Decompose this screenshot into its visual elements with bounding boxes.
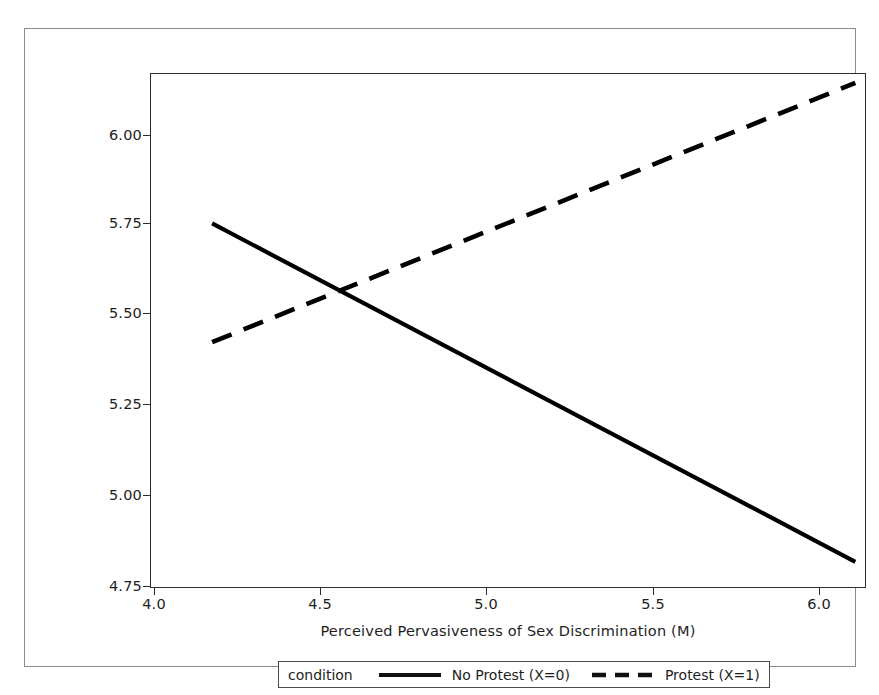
y-tick-mark-4-75 [143,586,150,587]
legend-swatch-solid-icon [379,670,441,680]
x-tick-mark-4-0 [154,588,155,595]
x-tick-label-4-5: 4.5 [308,596,332,612]
y-tick-mark-5-00 [143,495,150,496]
figure-frame: 6.00 5.75 5.50 5.25 5.00 4.75 4.0 4.5 5.… [24,28,856,667]
legend-label-protest: Protest (X=1) [665,667,760,683]
y-tick-mark-5-75 [143,223,150,224]
y-tick-mark-5-25 [143,404,150,405]
x-tick-mark-6-0 [819,588,820,595]
y-axis-title: Liking of the Attorney (Y) [55,589,77,695]
series-line-no-protest [212,223,855,561]
x-tick-label-5-5: 5.5 [641,596,665,612]
series-line-protest [212,83,855,342]
x-tick-label-4-0: 4.0 [142,596,166,612]
y-tick-label-6-00: 6.00 [109,127,142,143]
legend-swatch-dashed-icon [592,670,654,680]
x-tick-label-6-0: 6.0 [807,596,831,612]
x-tick-mark-5-5 [653,588,654,595]
y-tick-label-5-25: 5.25 [109,396,142,412]
legend-title: condition [288,667,353,683]
x-axis-title: Perceived Pervasiveness of Sex Discrimin… [150,623,866,639]
y-tick-label-5-75: 5.75 [109,215,142,231]
y-tick-mark-5-50 [143,313,150,314]
y-tick-label-5-00: 5.00 [109,487,142,503]
legend-entry-protest: Protest (X=1) [592,667,760,683]
x-tick-mark-5-0 [486,588,487,595]
chart-legend: condition No Protest (X=0) Protest (X=1) [278,661,770,688]
plot-area [150,73,866,588]
y-tick-label-4-75: 4.75 [109,578,142,594]
y-axis-ticks: 6.00 5.75 5.50 5.25 5.00 4.75 [80,29,142,695]
x-tick-mark-4-5 [320,588,321,595]
y-tick-label-5-50: 5.50 [109,305,142,321]
plot-lines-svg [151,74,865,587]
legend-entry-no-protest: No Protest (X=0) [379,667,570,683]
x-tick-label-5-0: 5.0 [474,596,498,612]
legend-label-no-protest: No Protest (X=0) [452,667,570,683]
y-tick-mark-6-00 [143,135,150,136]
